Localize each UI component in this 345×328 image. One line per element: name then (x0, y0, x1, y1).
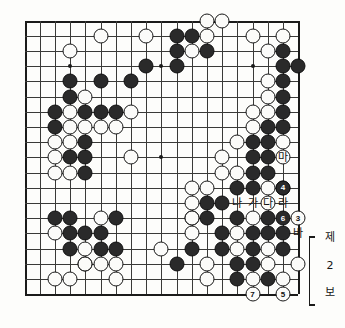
white-stone[interactable] (108, 119, 123, 134)
white-stone[interactable] (215, 13, 230, 28)
black-stone[interactable] (123, 74, 138, 89)
black-stone[interactable] (260, 119, 275, 134)
black-stone[interactable] (47, 211, 62, 226)
move-stone-4[interactable]: 4 (275, 180, 290, 195)
white-stone[interactable] (93, 211, 108, 226)
white-stone[interactable] (123, 150, 138, 165)
black-stone[interactable] (260, 271, 275, 286)
white-stone[interactable] (230, 165, 245, 180)
black-stone[interactable] (93, 104, 108, 119)
move-stone-7[interactable]: 7 (245, 287, 260, 302)
white-stone[interactable] (63, 104, 78, 119)
white-stone[interactable] (78, 256, 93, 271)
white-stone[interactable] (275, 135, 290, 150)
black-stone[interactable] (184, 241, 199, 256)
black-stone[interactable] (245, 165, 260, 180)
black-stone[interactable] (215, 226, 230, 241)
white-stone[interactable] (108, 271, 123, 286)
black-stone[interactable] (78, 150, 93, 165)
white-stone[interactable] (260, 43, 275, 58)
white-stone[interactable] (230, 226, 245, 241)
black-stone[interactable] (275, 89, 290, 104)
white-stone[interactable] (93, 256, 108, 271)
white-stone[interactable] (184, 226, 199, 241)
white-stone[interactable] (260, 256, 275, 271)
black-stone[interactable] (93, 241, 108, 256)
white-stone[interactable] (275, 271, 290, 286)
white-stone[interactable] (199, 256, 214, 271)
black-stone[interactable] (215, 195, 230, 210)
white-stone[interactable] (184, 211, 199, 226)
white-stone[interactable] (260, 89, 275, 104)
white-stone[interactable] (260, 241, 275, 256)
black-stone[interactable] (291, 59, 306, 74)
black-stone[interactable] (184, 28, 199, 43)
white-stone[interactable] (63, 43, 78, 58)
white-stone[interactable] (63, 119, 78, 134)
black-stone[interactable] (245, 226, 260, 241)
black-stone[interactable] (260, 211, 275, 226)
white-stone[interactable] (275, 28, 290, 43)
black-stone[interactable] (169, 28, 184, 43)
white-stone[interactable] (260, 104, 275, 119)
black-stone[interactable] (199, 43, 214, 58)
white-stone[interactable] (260, 180, 275, 195)
black-stone[interactable] (260, 150, 275, 165)
black-stone[interactable] (63, 226, 78, 241)
black-stone[interactable] (275, 74, 290, 89)
white-stone[interactable] (47, 226, 62, 241)
white-stone[interactable] (199, 13, 214, 28)
black-stone[interactable] (230, 180, 245, 195)
white-stone[interactable] (78, 119, 93, 134)
black-stone[interactable] (230, 256, 245, 271)
black-stone[interactable] (245, 180, 260, 195)
white-stone[interactable] (245, 119, 260, 134)
black-stone[interactable] (63, 74, 78, 89)
black-stone[interactable] (215, 241, 230, 256)
black-stone[interactable] (260, 135, 275, 150)
black-stone[interactable] (108, 211, 123, 226)
white-stone[interactable] (230, 135, 245, 150)
white-stone[interactable] (291, 256, 306, 271)
white-stone[interactable] (245, 211, 260, 226)
black-stone[interactable] (169, 59, 184, 74)
white-stone[interactable] (63, 271, 78, 286)
white-stone[interactable] (260, 74, 275, 89)
white-stone[interactable] (63, 135, 78, 150)
white-stone[interactable] (245, 28, 260, 43)
black-stone[interactable] (199, 195, 214, 210)
black-stone[interactable] (275, 119, 290, 134)
black-stone[interactable] (245, 135, 260, 150)
black-stone[interactable] (93, 74, 108, 89)
black-stone[interactable] (108, 104, 123, 119)
black-stone[interactable] (47, 104, 62, 119)
white-stone[interactable] (139, 28, 154, 43)
black-stone[interactable] (275, 59, 290, 74)
black-stone[interactable] (245, 256, 260, 271)
black-stone[interactable] (63, 89, 78, 104)
white-stone[interactable] (199, 28, 214, 43)
white-stone[interactable] (78, 241, 93, 256)
white-stone[interactable] (184, 180, 199, 195)
white-stone[interactable] (47, 135, 62, 150)
black-stone[interactable] (275, 104, 290, 119)
black-stone[interactable] (169, 256, 184, 271)
white-stone[interactable] (245, 271, 260, 286)
white-stone[interactable] (47, 150, 62, 165)
black-stone[interactable] (78, 226, 93, 241)
white-stone[interactable] (199, 180, 214, 195)
black-stone[interactable] (199, 211, 214, 226)
go-board[interactable]: 34567 (24, 20, 305, 305)
white-stone[interactable] (47, 271, 62, 286)
black-stone[interactable] (275, 43, 290, 58)
black-stone[interactable] (108, 241, 123, 256)
black-stone[interactable] (63, 241, 78, 256)
white-stone[interactable] (78, 89, 93, 104)
black-stone[interactable] (139, 59, 154, 74)
white-stone[interactable] (199, 271, 214, 286)
black-stone[interactable] (78, 104, 93, 119)
black-stone[interactable] (78, 165, 93, 180)
black-stone[interactable] (245, 150, 260, 165)
black-stone[interactable] (260, 226, 275, 241)
move-stone-6[interactable]: 6 (275, 211, 290, 226)
